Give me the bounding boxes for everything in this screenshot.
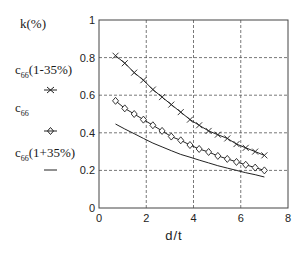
diamond-marker-icon	[196, 145, 202, 152]
data-series	[113, 53, 268, 177]
x-marker-icon	[261, 152, 267, 158]
series-line	[116, 124, 265, 177]
axes	[99, 20, 288, 208]
diamond-marker-icon	[122, 105, 128, 112]
x-marker-icon	[140, 77, 146, 83]
diamond-marker-icon	[159, 127, 165, 134]
diamond-marker-icon	[215, 152, 221, 159]
series-none	[116, 124, 265, 177]
x-marker-icon	[150, 87, 156, 93]
x-marker-icon	[178, 109, 184, 115]
x-tick-label: 0	[96, 212, 102, 224]
x-marker-icon	[187, 117, 193, 123]
x-marker-icon	[122, 60, 128, 66]
plot-frame	[99, 20, 288, 208]
x-marker-icon	[224, 135, 230, 141]
x-marker-icon	[243, 145, 249, 151]
diamond-marker-icon	[252, 164, 258, 171]
diamond-marker-icon	[206, 148, 212, 155]
diamond-marker-icon	[113, 97, 119, 104]
diamond-marker-icon	[243, 161, 249, 168]
y-tick-label: 0.8	[80, 52, 95, 64]
diamond-marker-icon	[168, 133, 174, 140]
diamond-marker-icon	[178, 137, 184, 144]
series-diamond	[113, 97, 268, 174]
y-tick-label: 0.2	[80, 164, 95, 176]
diamond-marker-icon	[140, 116, 146, 123]
x-marker-icon	[206, 128, 212, 134]
x-marker-icon	[159, 94, 165, 100]
diamond-marker-icon	[131, 111, 137, 118]
tick-labels: 0246800.20.40.60.81	[80, 14, 291, 224]
x-marker-icon	[196, 122, 202, 128]
x-marker-icon	[168, 102, 174, 108]
x-tick-label: 6	[238, 212, 244, 224]
diamond-marker-icon	[150, 122, 156, 129]
y-tick-label: 1	[89, 14, 95, 26]
grid-lines	[99, 20, 288, 208]
x-tick-label: 8	[285, 212, 291, 224]
diamond-marker-icon	[187, 142, 193, 149]
x-marker-icon	[252, 149, 258, 155]
x-marker-icon	[131, 70, 137, 76]
x-tick-label: 2	[143, 212, 149, 224]
line-chart: 0246800.20.40.60.81 d/t	[0, 0, 305, 255]
legend-marker-diamond-icon	[44, 128, 57, 135]
x-marker-icon	[233, 141, 239, 147]
x-tick-label: 4	[190, 212, 196, 224]
x-axis-label: d/t	[165, 228, 182, 243]
series-line	[116, 56, 265, 156]
x-marker-icon	[215, 132, 221, 138]
y-tick-label: 0.6	[80, 89, 95, 101]
legend-marker-x-icon	[44, 87, 57, 93]
diamond-marker-icon	[233, 158, 239, 165]
diamond-marker-icon	[261, 167, 267, 174]
y-tick-label: 0	[89, 202, 95, 214]
diamond-marker-icon	[224, 155, 230, 162]
y-tick-label: 0.4	[80, 127, 95, 139]
